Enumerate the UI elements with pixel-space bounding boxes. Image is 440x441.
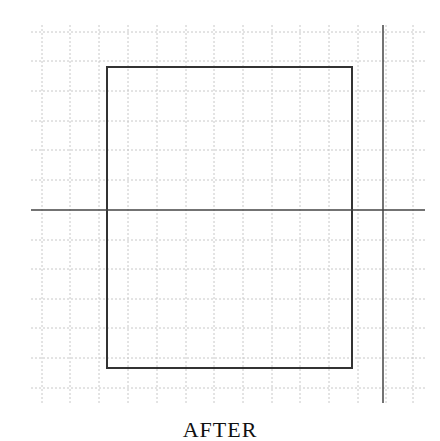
caption: AFTER: [0, 419, 440, 441]
